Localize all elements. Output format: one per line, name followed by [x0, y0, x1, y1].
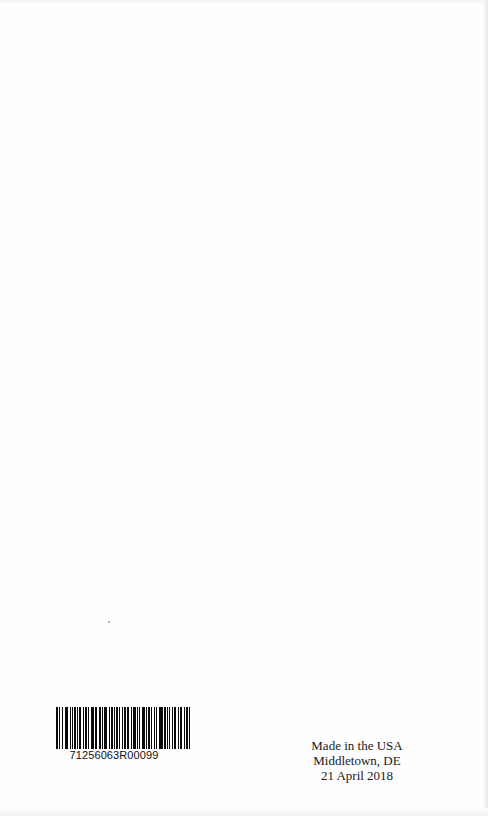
imprint-date: 21 April 2018 [297, 768, 417, 783]
barcode-bar [190, 707, 192, 749]
page-right-edge [484, 0, 488, 816]
imprint-origin: Made in the USA [297, 738, 417, 753]
page-bottom-edge [0, 808, 488, 816]
barcode-number: 71256063R00099 [56, 749, 172, 761]
scan-speck [108, 621, 110, 623]
book-back-page: 71256063R00099 Made in the USA Middletow… [0, 0, 488, 816]
barcode-icon [56, 707, 193, 749]
imprint-location: Middletown, DE [297, 753, 417, 768]
page-top-edge [0, 0, 488, 4]
printer-imprint: Made in the USA Middletown, DE 21 April … [297, 738, 417, 783]
